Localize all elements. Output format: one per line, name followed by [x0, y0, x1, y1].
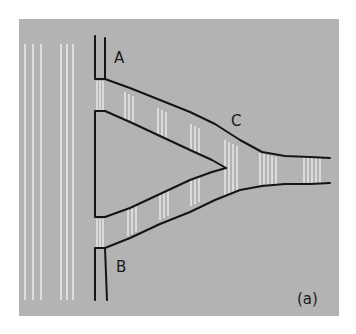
channel-merge-diagram: A B C (a): [0, 0, 356, 334]
inlet-a-label: A: [114, 49, 125, 67]
inlet-b-label: B: [116, 258, 126, 276]
junction-c-label: C: [231, 112, 241, 130]
panel-label: (a): [297, 290, 318, 308]
